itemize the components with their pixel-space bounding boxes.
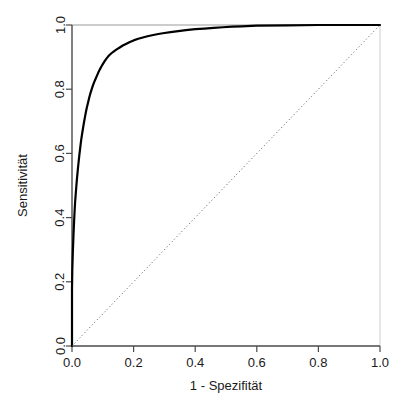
y-axis-title: Sensitivität [15,154,30,217]
x-tick-label: 0.2 [125,355,143,370]
y-tick-label: 0.6 [53,144,68,162]
x-tick-label: 0.8 [309,355,327,370]
roc-chart-figure: 0.00.20.40.60.81.00.00.20.40.60.81.01 - … [0,0,408,417]
x-tick-label: 0.6 [248,355,266,370]
y-tick-label: 0.8 [53,80,68,98]
x-tick-label: 1.0 [371,355,389,370]
x-tick-label: 0.0 [63,355,81,370]
y-tick-label: 1.0 [53,16,68,34]
y-tick-label: 0.4 [53,209,68,227]
y-tick-label: 0.0 [53,337,68,355]
x-tick-label: 0.4 [186,355,204,370]
x-axis-title: 1 - Spezifität [190,378,263,393]
roc-plot-canvas: 0.00.20.40.60.81.00.00.20.40.60.81.01 - … [0,0,408,417]
y-tick-label: 0.2 [53,273,68,291]
